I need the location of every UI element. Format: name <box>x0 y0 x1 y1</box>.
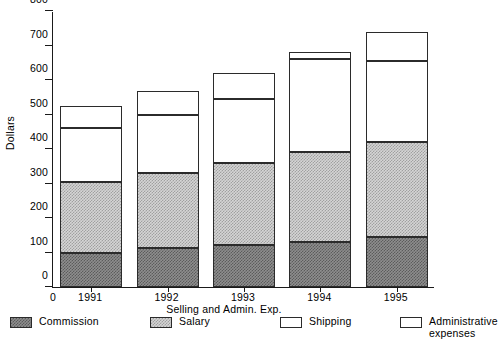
x-axis-label-1991: 1991 <box>78 291 102 303</box>
legend-swatch-salary <box>150 317 172 328</box>
bar-segment-salary <box>289 152 351 242</box>
y-axis-tick-label: 300 <box>30 166 48 178</box>
y-axis-tick-label: 400 <box>30 131 48 143</box>
bar-1994 <box>289 52 351 287</box>
legend-label: Shipping <box>309 316 351 328</box>
y-axis-tick <box>45 114 53 115</box>
bar-segment-administrative <box>213 73 275 99</box>
x-axis-label-1993: 1993 <box>231 291 255 303</box>
bar-1991 <box>60 106 122 287</box>
x-axis-label-1994: 1994 <box>307 291 331 303</box>
legend-swatch-commission <box>10 317 32 328</box>
x-axis-origin-label: 0 <box>50 291 56 303</box>
bar-segment-shipping <box>213 99 275 163</box>
bar-segment-shipping <box>366 61 428 142</box>
bar-segment-salary <box>137 173 199 248</box>
legend-item-shipping[interactable]: Shipping <box>280 316 351 328</box>
y-axis-tick <box>45 79 53 80</box>
y-axis-tick-label: 200 <box>30 200 48 212</box>
bar-segment-administrative <box>60 106 122 128</box>
chart-legend: CommissionSalaryShippingAdministrative e… <box>10 316 448 339</box>
bar-segment-shipping <box>289 59 351 153</box>
bar-segment-shipping <box>60 128 122 181</box>
legend-swatch-shipping <box>280 317 302 328</box>
y-axis-tick-label: 800 <box>30 0 48 5</box>
y-axis-tick <box>45 148 53 149</box>
y-axis-title: Dollars <box>4 116 16 150</box>
bar-1995 <box>366 32 428 287</box>
legend-label: Administrative expenses <box>429 316 498 339</box>
bar-segment-commission <box>137 248 199 287</box>
legend-label: Commission <box>39 316 99 328</box>
bar-segment-salary <box>213 163 275 245</box>
bar-segment-salary <box>366 142 428 237</box>
y-axis-tick-label: 700 <box>30 28 48 40</box>
bar-1993 <box>213 73 275 287</box>
y-axis-tick-label: 0 <box>42 269 48 281</box>
plot-area: 0100200300400500600700800 <box>52 12 434 288</box>
legend-item-administrative[interactable]: Administrative expenses <box>400 316 498 339</box>
legend-label: Salary <box>179 316 210 328</box>
x-axis-label-1995: 1995 <box>384 291 408 303</box>
bar-segment-salary <box>60 182 122 253</box>
bar-segment-commission <box>366 237 428 287</box>
y-axis-tick <box>45 183 53 184</box>
legend-item-salary[interactable]: Salary <box>150 316 210 328</box>
bar-segment-commission <box>289 242 351 287</box>
x-axis-label-1992: 1992 <box>155 291 179 303</box>
bar-segment-shipping <box>137 115 199 174</box>
y-axis-tick <box>45 217 53 218</box>
y-axis-tick-label: 500 <box>30 97 48 109</box>
legend-swatch-administrative <box>400 317 422 328</box>
bar-segment-commission <box>213 245 275 287</box>
bar-segment-commission <box>60 253 122 288</box>
bar-1992 <box>137 91 199 287</box>
y-axis-tick-label: 600 <box>30 62 48 74</box>
x-axis-title: Selling and Admin. Exp. <box>0 303 448 315</box>
y-axis-tick <box>45 252 53 253</box>
y-axis-tick <box>45 10 53 11</box>
y-axis-tick <box>45 286 53 287</box>
legend-item-commission[interactable]: Commission <box>10 316 99 328</box>
bar-segment-administrative <box>137 91 199 114</box>
y-axis-tick-label: 100 <box>30 235 48 247</box>
bar-segment-administrative <box>366 32 428 61</box>
y-axis-tick <box>45 45 53 46</box>
